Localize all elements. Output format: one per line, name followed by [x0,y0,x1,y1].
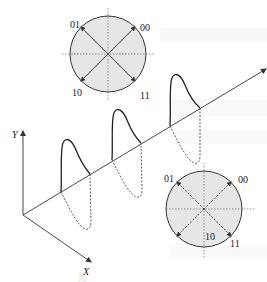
label-11-top: 11 [140,90,150,101]
y-axis-label: Y [12,129,19,140]
label-00-top: 00 [140,22,150,33]
label-01-top: 01 [70,19,80,30]
bottom-constellation: 01 00 10 11 [164,163,256,258]
pulse-2-dashed [112,143,142,197]
qpsk-diagram: 01 00 10 11 01 00 10 11 Y X 图 [0,0,267,282]
top-constellation: 01 00 10 11 [62,8,154,101]
label-00-bottom: 00 [238,174,248,185]
pulse-1-dashed [61,174,91,229]
pulse-1-solid [61,139,90,192]
label-10-bottom: 10 [205,231,215,242]
label-11-bottom: 11 [230,238,240,249]
label-10-top: 10 [72,87,82,98]
x-axis [23,215,91,262]
figure-caption: 图 [78,273,87,282]
label-01-bottom: 01 [164,173,174,184]
